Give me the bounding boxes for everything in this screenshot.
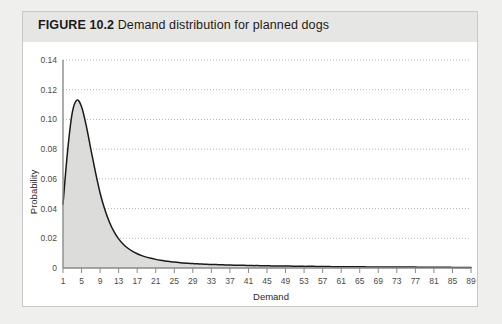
y-axis-tick-labels: 00.020.040.060.080.100.120.14 [40,55,57,273]
x-tick-label: 13 [114,276,124,286]
x-axis-title: Demand [253,291,289,302]
y-axis-title: Probability [28,170,39,215]
distribution-area [63,100,471,268]
x-tick-label: 53 [299,276,309,286]
axes-group [63,60,471,268]
demand-distribution-chart: 00.020.040.060.080.100.120.14 1591317212… [23,42,479,308]
x-tick-label: 77 [411,276,421,286]
x-tick-label: 21 [151,276,161,286]
x-tick-label: 69 [374,276,384,286]
x-tick-label: 45 [262,276,272,286]
figure-title: FIGURE 10.2 Demand distribution for plan… [38,18,329,32]
x-tick-label: 65 [355,276,365,286]
y-tick-label: 0.08 [40,144,57,154]
x-axis-tick-labels: 1591317212529333741454953576165697377818… [61,276,476,286]
x-tick-label: 17 [132,276,142,286]
x-tick-label: 1 [61,276,66,286]
gridlines-group [63,60,471,238]
x-tick-label: 73 [392,276,402,286]
x-tick-label: 37 [225,276,235,286]
figure-caption: Demand distribution for planned dogs [118,18,329,32]
x-tick-label: 5 [79,276,84,286]
x-tick-label: 89 [466,276,476,286]
chart-plot-area: 00.020.040.060.080.100.120.14 1591317212… [23,42,479,308]
distribution-fill [63,100,471,268]
figure-card: FIGURE 10.2 Demand distribution for plan… [22,11,478,307]
y-tick-label: 0.10 [40,114,57,124]
x-tick-label: 81 [429,276,439,286]
x-tick-label: 61 [336,276,346,286]
x-tick-label: 49 [281,276,291,286]
x-tick-label: 85 [448,276,458,286]
y-tick-label: 0.12 [40,85,57,95]
distribution-curve [63,100,471,267]
x-tick-label: 25 [170,276,180,286]
x-tick-label: 29 [188,276,198,286]
x-tick-label: 9 [98,276,103,286]
x-tick-label: 33 [207,276,217,286]
y-tick-label: 0 [52,263,57,273]
x-tick-label: 57 [318,276,328,286]
x-tick-label: 41 [244,276,254,286]
figure-number: FIGURE 10.2 [38,18,114,32]
y-tick-label: 0.04 [40,204,57,214]
y-tick-label: 0.02 [40,233,57,243]
y-tick-label: 0.14 [40,55,57,65]
y-tick-label: 0.06 [40,174,57,184]
x-axis-ticks [63,268,471,273]
